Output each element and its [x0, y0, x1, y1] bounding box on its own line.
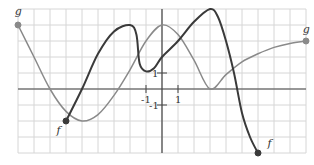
- endpoint-f: [255, 150, 261, 156]
- endpoint-g: [303, 38, 309, 44]
- curve-label-f: f: [267, 137, 274, 150]
- curve-label-f: f: [55, 124, 62, 137]
- endpoint-f: [63, 118, 69, 124]
- function-graph: -111-1 ggff: [0, 0, 314, 165]
- endpoint-g: [15, 22, 21, 28]
- x-tick-label: 1: [175, 94, 181, 105]
- y-tick-label: -1: [149, 100, 159, 111]
- curve-label-g: g: [303, 23, 310, 36]
- axes: -111-1: [18, 9, 306, 153]
- curve-label-g: g: [15, 5, 22, 18]
